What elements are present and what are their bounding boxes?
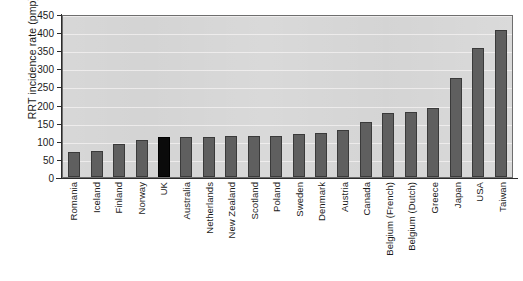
y-tick-label-450: 450 bbox=[20, 10, 54, 21]
x-label-wrap: Netherlands bbox=[203, 180, 215, 278]
bar-uk bbox=[158, 137, 170, 177]
bar-iceland bbox=[91, 151, 103, 177]
y-tick-label-0: 0 bbox=[20, 173, 54, 184]
x-label-wrap: Romania bbox=[67, 180, 79, 278]
bar-series bbox=[63, 16, 512, 177]
bar-greece bbox=[427, 108, 439, 177]
bar-norway bbox=[136, 140, 148, 177]
x-label-wrap: Greece bbox=[428, 180, 440, 278]
x-label-wrap: Canada bbox=[360, 180, 372, 278]
x-tick-label-new-zealand: New Zealand bbox=[226, 182, 237, 239]
x-tick-label-finland: Finland bbox=[113, 182, 124, 214]
x-tick-label-uk: UK bbox=[158, 182, 169, 195]
x-tick-label-australia: Australia bbox=[181, 182, 192, 219]
x-label-wrap: New Zealand bbox=[225, 180, 237, 278]
bar-scotland bbox=[248, 136, 260, 177]
x-label-wrap: Denmark bbox=[315, 180, 327, 278]
x-axis-labels: RomaniaIcelandFinlandNorwayUKAustraliaNe… bbox=[62, 180, 513, 278]
x-label-wrap: USA bbox=[473, 180, 485, 278]
x-label-wrap: Belgium (French) bbox=[383, 180, 395, 278]
bar-japan bbox=[450, 78, 462, 177]
x-label-wrap: Japan bbox=[451, 180, 463, 278]
x-label-wrap: Austria bbox=[338, 180, 350, 278]
x-tick-label-usa: USA bbox=[474, 182, 485, 202]
bar-denmark bbox=[315, 133, 327, 177]
x-label-wrap: Taiwan bbox=[496, 180, 508, 278]
x-label-wrap: Sweden bbox=[293, 180, 305, 278]
x-tick-label-taiwan: Taiwan bbox=[496, 182, 507, 212]
y-tick-label-150: 150 bbox=[20, 118, 54, 129]
x-label-wrap: Finland bbox=[112, 180, 124, 278]
x-label-wrap: UK bbox=[157, 180, 169, 278]
x-tick-label-japan: Japan bbox=[451, 182, 462, 208]
y-tick-label-350: 350 bbox=[20, 46, 54, 57]
x-label-wrap: Scotland bbox=[248, 180, 260, 278]
x-tick-label-belgium-french: Belgium (French) bbox=[383, 182, 394, 256]
x-tick-label-norway: Norway bbox=[135, 182, 146, 215]
bar-usa bbox=[472, 48, 484, 177]
x-tick-label-canada: Canada bbox=[361, 182, 372, 216]
bar-poland bbox=[270, 136, 282, 177]
x-tick-label-romania: Romania bbox=[68, 182, 79, 220]
x-axis-line bbox=[56, 178, 518, 179]
bar-belgium-dutch bbox=[405, 112, 417, 177]
x-label-wrap: Norway bbox=[135, 180, 147, 278]
bar-canada bbox=[360, 122, 372, 177]
bar-netherlands bbox=[203, 137, 215, 177]
x-tick-label-iceland: Iceland bbox=[90, 182, 101, 213]
x-tick-label-greece: Greece bbox=[429, 182, 440, 213]
y-tick-label-250: 250 bbox=[20, 82, 54, 93]
y-tick-label-100: 100 bbox=[20, 136, 54, 147]
chart-root: RRT incidence rate (pmp) 050100150200250… bbox=[0, 0, 523, 281]
x-tick-label-belgium-dutch: Belgium (Dutch) bbox=[406, 182, 417, 251]
x-label-wrap: Australia bbox=[180, 180, 192, 278]
bar-australia bbox=[180, 137, 192, 177]
x-tick-label-austria: Austria bbox=[338, 182, 349, 212]
bar-belgium-french bbox=[382, 113, 394, 177]
y-tick-label-400: 400 bbox=[20, 28, 54, 39]
y-tick-label-300: 300 bbox=[20, 64, 54, 75]
x-tick-label-sweden: Sweden bbox=[293, 182, 304, 217]
x-label-wrap: Poland bbox=[270, 180, 282, 278]
x-label-wrap: Iceland bbox=[90, 180, 102, 278]
y-tick-label-200: 200 bbox=[20, 100, 54, 111]
x-tick-label-denmark: Denmark bbox=[316, 182, 327, 221]
x-label-wrap: Belgium (Dutch) bbox=[405, 180, 417, 278]
bar-taiwan bbox=[495, 30, 507, 177]
bar-finland bbox=[113, 144, 125, 177]
bar-sweden bbox=[293, 134, 305, 177]
plot-area bbox=[62, 15, 513, 178]
x-tick-label-netherlands: Netherlands bbox=[203, 182, 214, 234]
y-tick-label-50: 50 bbox=[20, 154, 54, 165]
bar-romania bbox=[68, 152, 80, 177]
bar-austria bbox=[337, 130, 349, 177]
x-tick-label-scotland: Scotland bbox=[248, 182, 259, 219]
x-tick-label-poland: Poland bbox=[271, 182, 282, 212]
bar-new-zealand bbox=[225, 136, 237, 177]
